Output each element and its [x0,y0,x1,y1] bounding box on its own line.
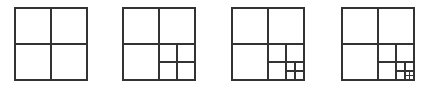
panel-depth-1 [15,8,87,80]
panel-depth-2 [123,8,195,80]
panel-depth-3 [232,8,304,80]
quadtree-diagram [0,0,426,87]
diagram-canvas [0,0,426,87]
panel-depth-4 [342,8,414,80]
